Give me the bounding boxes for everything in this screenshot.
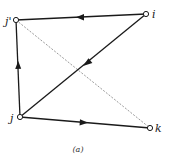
figure-caption: (a) [72, 145, 83, 154]
edge-jprime-k-dashed [16, 20, 150, 128]
node-label-jprime: j' [2, 15, 11, 28]
node-label-j: j [7, 112, 14, 125]
directed-graph-diagram: j' i j k (a) [0, 0, 169, 158]
node-jprime [13, 17, 18, 22]
node-label-i: i [152, 8, 156, 21]
node-label-k: k [155, 122, 162, 135]
arrow-icon-j-to-jprime [15, 61, 21, 69]
node-i [143, 11, 148, 16]
node-k [147, 125, 152, 130]
arrow-icon-i-to-jprime [76, 14, 84, 21]
edge-i-to-j [20, 14, 146, 117]
arrow-icon-j-to-k [80, 119, 89, 125]
node-j [17, 114, 22, 119]
